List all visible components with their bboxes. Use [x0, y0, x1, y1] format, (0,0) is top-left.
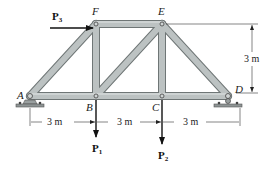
label-A: A: [16, 89, 24, 101]
svg-text:P1: P1: [92, 142, 103, 156]
truss-diagram: P3 P1 P2 F E A B C D 3 m 3 m 3 m 3 m: [0, 0, 271, 174]
dim-AB: 3 m: [47, 116, 63, 127]
pin-E: [160, 22, 164, 26]
pin-D: [226, 94, 231, 99]
svg-text:P3: P3: [52, 10, 63, 24]
dim-BC: 3 m: [117, 116, 133, 127]
pin-B: [94, 94, 98, 98]
label-F: F: [91, 5, 99, 17]
svg-text:P2: P2: [158, 149, 169, 163]
load-P2: P2: [158, 100, 169, 163]
pin-F: [94, 22, 98, 26]
label-C: C: [152, 101, 160, 113]
dim-height: 3 m: [244, 53, 260, 64]
pin-A: [28, 94, 33, 99]
label-B: B: [86, 101, 93, 113]
load-P1: P1: [92, 100, 103, 156]
load-P3: P3: [50, 10, 93, 28]
pin-C: [160, 94, 164, 98]
label-E: E: [157, 5, 165, 17]
pin-support-A: [16, 100, 44, 107]
dim-CD: 3 m: [183, 116, 199, 127]
